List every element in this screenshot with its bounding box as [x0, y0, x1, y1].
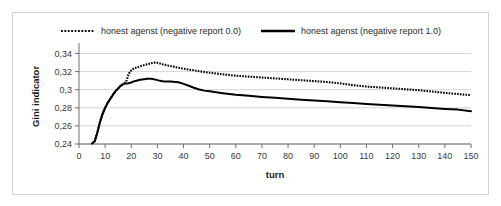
x-tick-label-10: 100	[333, 151, 348, 161]
x-tick-label-5: 50	[205, 151, 215, 161]
x-tick-label-4: 40	[179, 151, 189, 161]
y-axis-tick-labels: 0,240,260,280,30,320,34	[54, 49, 72, 149]
x-tick-label-6: 60	[231, 151, 241, 161]
x-tick-label-9: 90	[309, 151, 319, 161]
x-tick-label-3: 30	[152, 151, 162, 161]
legend-label-0: honest agenst (negative report 0.0)	[101, 26, 241, 36]
x-axis-tick-labels: 0102030405060708090100110120130140150	[76, 151, 478, 161]
y-tick-label-5: 0,34	[54, 49, 72, 59]
x-tick-label-2: 20	[126, 151, 136, 161]
x-tick-label-7: 70	[257, 151, 267, 161]
y-tick-label-0: 0,24	[54, 139, 72, 149]
y-tick-label-2: 0,28	[54, 103, 72, 113]
y-tick-label-4: 0,32	[54, 67, 72, 77]
x-tick-label-0: 0	[76, 151, 81, 161]
data-series	[92, 63, 471, 144]
y-tick-label-1: 0,26	[54, 121, 72, 131]
chart-container: honest agenst (negative report 0.0)hones…	[12, 12, 489, 195]
x-tick-label-1: 10	[100, 151, 110, 161]
x-tick-label-11: 110	[359, 151, 373, 161]
y-axis-title: Gini indicator	[30, 66, 41, 128]
y-tick-label-3: 0,3	[59, 85, 72, 95]
axes	[75, 43, 471, 148]
x-tick-label-8: 80	[283, 151, 293, 161]
series-line-0	[92, 63, 471, 144]
x-axis-title: turn	[266, 169, 285, 180]
x-tick-label-12: 120	[385, 151, 400, 161]
chart-plot: honest agenst (negative report 0.0)hones…	[13, 13, 490, 196]
x-tick-label-15: 150	[463, 151, 478, 161]
series-line-1	[92, 79, 471, 144]
x-tick-label-14: 140	[437, 151, 452, 161]
chart-legend: honest agenst (negative report 0.0)hones…	[61, 26, 441, 36]
legend-label-1: honest agenst (negative report 1.0)	[301, 26, 441, 36]
x-tick-label-13: 130	[411, 151, 426, 161]
